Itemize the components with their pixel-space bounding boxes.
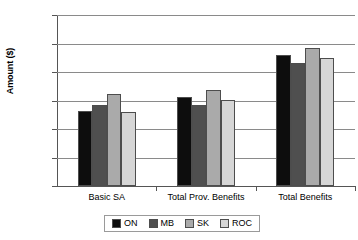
- x-category-label: Total Prov. Benefits: [156, 192, 255, 202]
- bar-mb-2: [291, 63, 306, 186]
- x-category-label: Total Benefits: [256, 192, 355, 202]
- legend-item-sk[interactable]: SK: [185, 219, 209, 228]
- gridline: [57, 15, 355, 16]
- legend-item-roc[interactable]: ROC: [220, 219, 252, 228]
- y-tick-mark: [52, 101, 57, 102]
- legend-label: MB: [161, 219, 175, 228]
- legend-item-on[interactable]: ON: [112, 219, 138, 228]
- y-tick-mark: [52, 129, 57, 130]
- y-axis-title: Amount ($): [5, 31, 15, 111]
- x-tick-mark: [355, 186, 356, 191]
- legend-swatch-icon: [220, 219, 229, 228]
- bar-mb-0: [92, 105, 107, 186]
- gridline: [57, 44, 355, 45]
- legend-label: ROC: [232, 219, 252, 228]
- bar-on-0: [78, 111, 93, 186]
- bar-roc-1: [221, 100, 236, 186]
- bar-roc-0: [121, 112, 136, 186]
- x-category-label: Basic SA: [57, 192, 156, 202]
- legend-swatch-icon: [112, 219, 121, 228]
- bar-roc-2: [320, 58, 335, 186]
- legend-swatch-icon: [149, 219, 158, 228]
- bar-chart: Amount ($) 05,00010,00015,00020,00025,00…: [0, 0, 358, 240]
- y-tick-mark: [52, 44, 57, 45]
- bar-on-1: [177, 97, 192, 186]
- bar-on-2: [276, 55, 291, 186]
- y-tick-mark: [52, 15, 57, 16]
- chart-legend: ONMBSKROC: [104, 215, 260, 232]
- plot-area: [57, 15, 355, 186]
- bar-sk-1: [206, 90, 221, 186]
- x-axis-line: [57, 186, 356, 187]
- legend-label: ON: [124, 219, 138, 228]
- bar-mb-1: [192, 105, 207, 187]
- legend-swatch-icon: [185, 219, 194, 228]
- legend-item-mb[interactable]: MB: [149, 219, 175, 228]
- bar-sk-2: [305, 48, 320, 186]
- x-tick-mark: [156, 186, 157, 191]
- y-tick-mark: [52, 72, 57, 73]
- bar-sk-0: [107, 94, 122, 186]
- legend-label: SK: [197, 219, 209, 228]
- y-tick-mark: [52, 158, 57, 159]
- x-tick-mark: [256, 186, 257, 191]
- y-tick-mark: [52, 186, 57, 187]
